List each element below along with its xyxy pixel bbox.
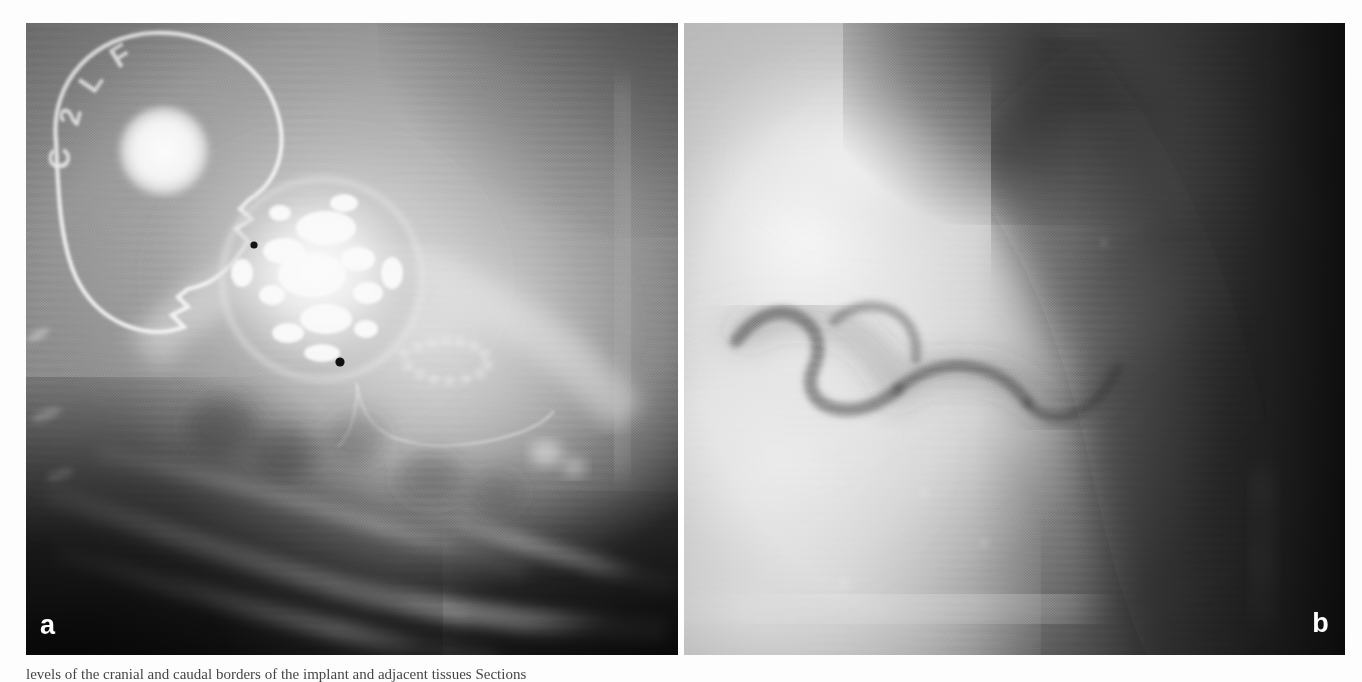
rib-bands: [46, 453, 674, 655]
panel-label-b: b: [1312, 610, 1329, 637]
lower-tissue-shelf: [684, 597, 1084, 621]
svg-text:C: C: [42, 147, 76, 170]
radiopaque-implant-mass: [218, 175, 426, 383]
figure-root: F L 2 C: [0, 0, 1362, 682]
marker-disc: [116, 105, 212, 201]
svg-text:F: F: [104, 36, 137, 74]
radiograph-panel-a: F L 2 C: [26, 23, 678, 655]
right-margin-structure: [1250, 463, 1278, 623]
film-speck: [250, 241, 257, 248]
tissue-plane-edge: [616, 83, 629, 473]
panel-b-structures: [684, 23, 1345, 655]
left-margin-flecks: [26, 326, 75, 484]
panel-a-structures: F L 2 C: [26, 23, 678, 655]
film-speck: [335, 357, 344, 366]
figure-caption: levels of the cranial and caudal borders…: [26, 666, 1346, 682]
soft-tissue-nodules: [530, 440, 586, 477]
radiograph-panel-b: b: [684, 23, 1345, 655]
panel-label-a: a: [40, 612, 55, 639]
